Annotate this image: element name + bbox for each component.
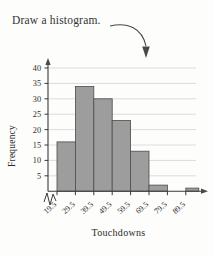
x-tick-labels: 19.5 29.5 39.5 49.5 59.5 69.5 79.5 89.5 [42,200,187,216]
y-tick-label: 30 [33,95,41,104]
x-axis-label: Touchdowns [0,227,213,238]
curved-down-arrow-icon [108,16,178,60]
y-axis-label: Frequency [7,116,17,176]
x-tick-label: 49.5 [97,200,113,216]
x-tick-label: 79.5 [152,200,168,216]
y-tick-label: 15 [33,141,41,150]
bar-bin-3 [94,99,112,191]
bar-bin-1 [57,142,75,191]
histogram-plot: 40 35 30 25 20 15 10 5 19.5 29.5 [0,55,213,256]
y-tick-label: 10 [33,156,41,165]
y-axis [45,58,51,191]
histogram-figure: Frequency [0,55,213,256]
y-tick-labels: 40 35 30 25 20 15 10 5 [33,64,41,181]
x-tick-label: 19.5 [42,200,58,216]
y-tick-label: 35 [33,79,41,88]
x-tick-label: 89.5 [171,200,187,216]
y-tick-label: 5 [37,172,41,181]
bar-bin-2 [75,87,93,192]
bar-bin-6 [149,185,167,191]
y-tick-label: 40 [33,64,41,73]
x-tick-label: 29.5 [60,200,76,216]
y-tick-label: 20 [33,126,41,135]
bar-bin-4 [112,120,130,191]
y-tick-label: 25 [33,110,41,119]
x-tick-label: 69.5 [134,200,150,216]
x-tick-label: 39.5 [79,200,95,216]
x-tick-label: 59.5 [116,200,132,216]
bar-bin-5 [131,151,149,191]
worksheet-page: { "instruction": { "text": "Draw a histo… [0,0,213,256]
instruction-text: Draw a histogram. [12,14,101,26]
